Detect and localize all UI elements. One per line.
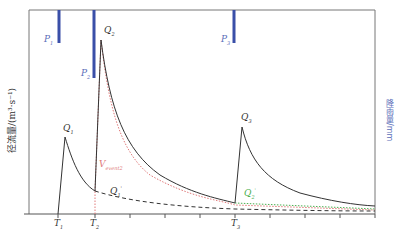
label-t1: T1	[54, 218, 63, 230]
x-ticks	[58, 214, 375, 218]
left-y-axis-label: 径流量/(m³·s⁻¹)	[2, 60, 22, 180]
label-t3-sub: 3	[237, 224, 240, 230]
rain-bar-p3	[233, 10, 236, 43]
label-q1-prime: Q1'	[110, 185, 122, 198]
label-q2-prime: Q2'	[244, 187, 256, 200]
label-p1: P1	[44, 34, 53, 46]
label-q1p-sub: 1	[117, 192, 120, 198]
hydrograph-figure	[0, 0, 398, 241]
label-t2-sub: 2	[96, 224, 99, 230]
label-q2p-sub: 2	[251, 194, 254, 200]
right-y-axis-label-text: 降雨量/mm	[384, 99, 395, 141]
left-y-axis-label-text: 径流量/(m³·s⁻¹)	[6, 87, 19, 152]
label-q2-sub: 2	[111, 31, 114, 37]
rain-bar-p2	[93, 10, 96, 78]
label-q1: Q1	[63, 123, 74, 135]
label-p1-sub: 1	[50, 40, 53, 46]
label-q3: Q3	[241, 112, 252, 124]
label-p3: P3	[221, 34, 230, 46]
label-q1p-sup: '	[121, 185, 122, 191]
label-q3-sub: 3	[248, 118, 251, 124]
label-t1-sub: 1	[60, 224, 63, 230]
label-q2: Q2	[104, 25, 115, 37]
label-p2: P2	[81, 68, 90, 80]
vevent2-dotted-line	[95, 40, 375, 214]
label-q2p-sup: '	[255, 187, 256, 193]
label-v-sub: event2	[106, 165, 123, 171]
label-p2-sub: 2	[87, 74, 90, 80]
label-t3: T3	[231, 218, 240, 230]
label-p3-sub: 3	[227, 40, 230, 46]
rain-bar-p1	[58, 10, 61, 43]
label-vevent2: Vevent2	[99, 159, 123, 171]
label-t2: T2	[90, 218, 99, 230]
label-q1-sub: 1	[70, 129, 73, 135]
right-y-axis-label: 降雨量/mm	[382, 70, 396, 170]
runoff-hydrograph	[58, 40, 375, 214]
